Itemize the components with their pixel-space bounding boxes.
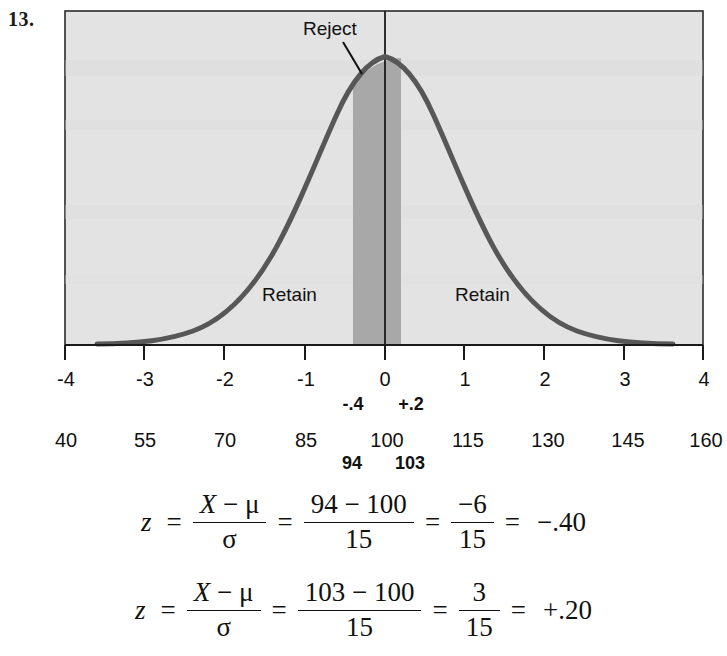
z-tick-label: 3 bbox=[619, 368, 630, 390]
minus-sign: − bbox=[223, 489, 238, 519]
mu-symbol: μ bbox=[239, 577, 253, 607]
equals-sign-2: = bbox=[266, 507, 303, 538]
reduced-denominator: 15 bbox=[451, 522, 494, 554]
raw-tick-label: 70 bbox=[214, 429, 236, 451]
z-tick-label: 4 bbox=[698, 368, 709, 390]
substituted-denominator: 15 bbox=[304, 522, 414, 554]
equation-result: −.40 bbox=[531, 507, 586, 538]
raw-axis-tick-labels: 40 55 70 85 100 115 130 145 160 bbox=[55, 429, 723, 451]
formula-numerator: X − μ bbox=[187, 578, 261, 609]
equals-sign: = bbox=[155, 507, 192, 538]
substituted-numerator: 103 − 100 bbox=[298, 578, 422, 609]
reduced-fraction: 3 15 bbox=[459, 578, 500, 641]
equals-sign-4: = bbox=[500, 595, 537, 626]
x-axis-ticks bbox=[65, 345, 703, 360]
reduced-numerator: −6 bbox=[451, 490, 494, 521]
z-tick-label: -1 bbox=[297, 368, 315, 390]
equation-lhs: z bbox=[141, 507, 156, 538]
raw-tick-label: 40 bbox=[55, 429, 77, 451]
normal-distribution-figure: Reject Retain Retain -4 -3 -2 -1 0 1 2 3… bbox=[0, 0, 727, 470]
critical-raw-lower: 94 bbox=[342, 453, 362, 470]
raw-tick-label: 100 bbox=[370, 429, 403, 451]
equation-row: z = X − μ σ = 94 − 100 15 = −6 15 = −.40 bbox=[0, 478, 727, 566]
critical-z-upper: +.2 bbox=[398, 394, 424, 414]
retain-left-label: Retain bbox=[262, 284, 317, 305]
raw-tick-label: 115 bbox=[452, 429, 484, 451]
equals-sign: = bbox=[150, 595, 187, 626]
substituted-numerator: 94 − 100 bbox=[304, 490, 414, 521]
critical-z-labels: -.4 +.2 bbox=[342, 394, 423, 414]
raw-tick-label: 130 bbox=[531, 429, 564, 451]
equals-sign-2: = bbox=[261, 595, 298, 626]
z-tick-label: -3 bbox=[136, 368, 154, 390]
reduced-denominator: 15 bbox=[459, 610, 500, 642]
equation-lhs: z bbox=[135, 595, 150, 626]
equals-sign-3: = bbox=[414, 507, 451, 538]
formula-numerator: X − μ bbox=[193, 490, 267, 521]
x-symbol: X bbox=[200, 489, 217, 519]
formula-fraction: X − μ σ bbox=[187, 578, 261, 641]
retain-right-label: Retain bbox=[455, 284, 510, 305]
equation-result: +.20 bbox=[537, 595, 592, 626]
z-tick-label: -2 bbox=[216, 368, 234, 390]
reduced-fraction: −6 15 bbox=[451, 490, 494, 553]
z-tick-label: 2 bbox=[539, 368, 550, 390]
equals-sign-4: = bbox=[494, 507, 531, 538]
z-tick-label: 1 bbox=[459, 368, 470, 390]
equation-row: z = X − μ σ = 103 − 100 15 = 3 15 = +.20 bbox=[0, 566, 727, 654]
x-symbol: X bbox=[194, 577, 211, 607]
formula-fraction: X − μ σ bbox=[193, 490, 267, 553]
raw-tick-label: 85 bbox=[295, 429, 317, 451]
reduced-numerator: 3 bbox=[465, 578, 493, 609]
reject-label: Reject bbox=[303, 18, 358, 39]
raw-tick-label: 55 bbox=[134, 429, 156, 451]
mu-symbol: μ bbox=[245, 489, 259, 519]
equations-block: z = X − μ σ = 94 − 100 15 = −6 15 = −.40… bbox=[0, 478, 727, 654]
critical-raw-upper: 103 bbox=[395, 453, 425, 470]
raw-tick-label: 160 bbox=[689, 429, 722, 451]
z-tick-label: -4 bbox=[57, 368, 75, 390]
minus-sign: − bbox=[217, 577, 232, 607]
formula-denominator: σ bbox=[187, 610, 261, 642]
raw-tick-label: 145 bbox=[611, 429, 644, 451]
critical-raw-labels: 94 103 bbox=[342, 453, 425, 470]
z-axis-tick-labels: -4 -3 -2 -1 0 1 2 3 4 bbox=[57, 368, 709, 390]
substituted-fraction: 103 − 100 15 bbox=[298, 578, 422, 641]
equals-sign-3: = bbox=[421, 595, 458, 626]
critical-z-lower: -.4 bbox=[342, 394, 363, 414]
substituted-denominator: 15 bbox=[298, 610, 422, 642]
z-tick-label: 0 bbox=[379, 368, 390, 390]
formula-denominator: σ bbox=[193, 522, 267, 554]
substituted-fraction: 94 − 100 15 bbox=[304, 490, 414, 553]
